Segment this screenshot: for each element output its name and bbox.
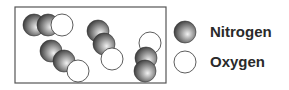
legend-nitrogen-label: Nitrogen: [210, 23, 272, 40]
legend-oxygen-icon: [174, 51, 196, 73]
oxygen-atom: [101, 48, 123, 70]
nitrogen-atom: [134, 60, 156, 82]
legend-oxygen-label: Oxygen: [210, 53, 265, 70]
oxygen-atom: [67, 60, 89, 82]
legend-nitrogen-icon: [174, 21, 196, 43]
diagram-canvas: [0, 0, 289, 90]
molecule-1: [23, 14, 73, 36]
oxygen-atom: [51, 14, 73, 36]
